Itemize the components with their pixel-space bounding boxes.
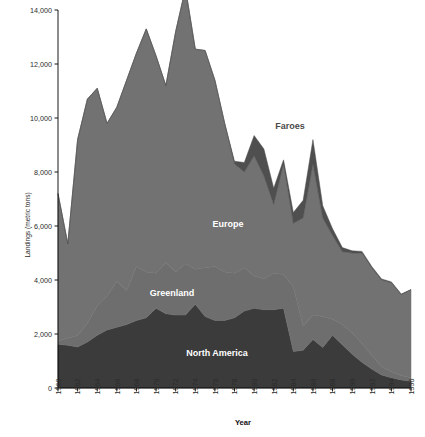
chart-canvas: 02,0004,0006,0008,00010,00012,00014,000 … [0, 0, 425, 437]
y-tick-label: 2,000 [34, 330, 52, 339]
series-label-faroes: Faroes [275, 121, 305, 131]
series-label-europe: Europe [212, 219, 243, 229]
x-tick-label: 1976 [211, 379, 220, 395]
series-label-north-america: North America [186, 348, 249, 358]
y-tick-label: 4,000 [34, 276, 52, 285]
x-tick-label: 1982 [270, 379, 279, 395]
y-tick-label: 12,000 [30, 60, 52, 69]
y-axis-title: Landings (metric tons) [24, 192, 32, 257]
x-axis-title: Year [235, 418, 251, 427]
stacked-area-chart: 02,0004,0006,0008,00010,00012,00014,000 … [0, 0, 425, 437]
x-tick-label: 1990 [348, 379, 357, 395]
x-tick-label: 1968 [132, 379, 141, 395]
x-tick-label: 1980 [250, 379, 259, 395]
x-tick-label: 1994 [387, 379, 396, 395]
x-tick-label: 1974 [191, 379, 200, 395]
x-tick-label: 1964 [93, 379, 102, 395]
x-tick-label: 1970 [152, 379, 161, 395]
x-tick-label: 1960 [54, 379, 63, 395]
x-tick-label: 1986 [309, 379, 318, 395]
x-tick-label: 1966 [113, 379, 122, 395]
x-tick-label: 1984 [289, 379, 298, 395]
y-tick-label: 6,000 [34, 222, 52, 231]
x-tick-label: 1978 [230, 379, 239, 395]
x-tick-label: 1962 [73, 379, 82, 395]
x-tick-label: 1972 [171, 379, 180, 395]
x-tick-label: 1996 [407, 379, 416, 395]
y-tick-label: 14,000 [30, 6, 52, 15]
y-tick-label: 8,000 [34, 168, 52, 177]
y-tick-label: 10,000 [30, 114, 52, 123]
series-label-greenland: Greenland [150, 288, 195, 298]
x-tick-label: 1988 [328, 379, 337, 395]
x-tick-label: 1992 [368, 379, 377, 395]
y-tick-label: 0 [48, 384, 52, 393]
